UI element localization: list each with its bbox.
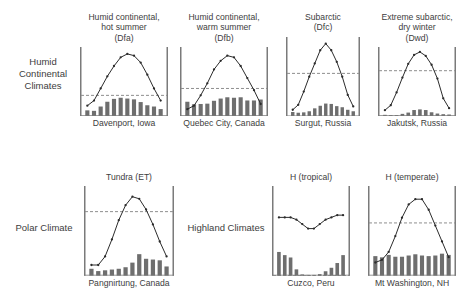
- climograph-panel-davenport: Humid continental, hot summer (Dfa)Daven…: [80, 12, 168, 130]
- panel-caption-location: Surgut, Russia: [278, 118, 368, 128]
- plot-area: [368, 186, 456, 276]
- climograph-panel-quebec: Humid continental, warm summer (Dfb)Queb…: [180, 12, 268, 130]
- panel-caption-location: Davenport, Iowa: [72, 118, 176, 128]
- plot-area: [378, 47, 456, 116]
- climograph-panel-cuzco: H (tropical)Cuzco, Peru: [272, 172, 350, 290]
- group-label-highland-climates: Highland Climates: [176, 222, 276, 234]
- climograph-panel-mt-washington: H (temperate)Mt Washington, NH: [368, 172, 456, 290]
- panel-caption-location: Mt Washington, NH: [360, 278, 463, 288]
- panel-caption-location: Pangnirtung, Canada: [76, 278, 182, 288]
- group-label-polar-climate: Polar Climate: [4, 222, 84, 234]
- group-label-humid-continental: Humid Continental Climates: [8, 56, 78, 92]
- panel-title: H (temperate): [368, 172, 456, 182]
- panel-title: Humid continental, warm summer (Dfb): [180, 12, 268, 43]
- plot-area: [272, 186, 350, 276]
- panel-caption-location: Jakutsk, Russia: [370, 118, 463, 128]
- panel-caption-location: Quebec City, Canada: [172, 118, 276, 128]
- climograph-panel-jakutsk: Extreme subarctic, dry winter (Dwd)Jakut…: [378, 12, 456, 130]
- climograph-panel-pangnirtung: Tundra (ET)Pangnirtung, Canada: [84, 172, 174, 290]
- plot-area: [80, 47, 168, 116]
- plot-area: [286, 37, 360, 116]
- panel-title: H (tropical): [272, 172, 350, 182]
- climograph-panel-surgut: Subarctic (Dfc)Surgut, Russia: [286, 12, 360, 130]
- panel-title: Tundra (ET): [84, 172, 174, 182]
- panel-title: Subarctic (Dfc): [286, 12, 360, 33]
- plot-area: [180, 47, 268, 116]
- plot-area: [84, 186, 174, 276]
- panel-caption-location: Cuzco, Peru: [264, 278, 358, 288]
- panel-title: Extreme subarctic, dry winter (Dwd): [378, 12, 456, 43]
- climate-graph-figure: Humid Continental Climates Polar Climate…: [0, 0, 463, 307]
- panel-title: Humid continental, hot summer (Dfa): [80, 12, 168, 43]
